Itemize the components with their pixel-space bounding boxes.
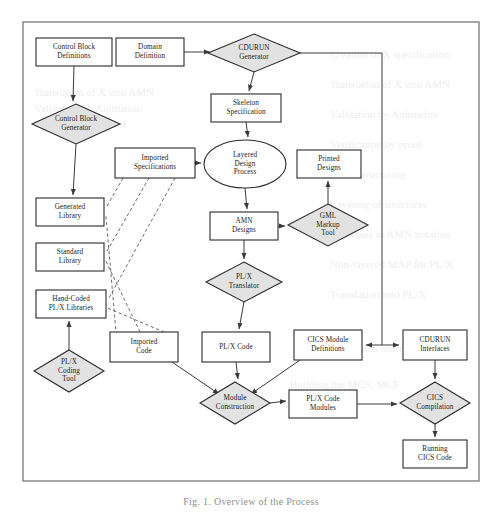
node-label-skeleton-specification: Skeleton (233, 99, 259, 107)
node-hand-coded-plx-libraries[interactable]: Hand-CodedPL/X Libraries (36, 290, 106, 318)
node-label-plx-code: PL/X Code (219, 343, 252, 351)
node-label-domain-definition: Domain (138, 43, 162, 51)
node-cics-compilation[interactable]: CICSCompilation (400, 382, 470, 424)
figure-root: Translation of X into AMNValidation by A… (0, 0, 502, 515)
bleed-through-text: Creation of X specification (330, 48, 450, 60)
node-label-gml-markup-tool: Tool (321, 229, 334, 237)
node-label-domain-definition: Definition (135, 52, 166, 60)
edge-imported-specifications-to-hand-coded-plx-libraries (108, 178, 175, 300)
node-label-plx-coding-tool: Tool (62, 375, 75, 383)
node-label-cdurun-interfaces: CDURUN (420, 336, 452, 344)
edge-cdurun-generator-to-skeleton-specification (249, 72, 254, 91)
node-layer: Control BlockDefinitionsDomainDefinition… (32, 34, 470, 468)
node-label-control-block-generator: Generator (61, 124, 91, 132)
node-label-plx-coding-tool: PL/X (61, 358, 78, 366)
node-label-layered-design-process: Layered (233, 151, 258, 159)
node-label-module-construction: Construction (216, 403, 255, 411)
node-domain-definition[interactable]: DomainDefinition (116, 38, 184, 66)
bleed-through-text: Layering of structures (330, 198, 427, 210)
edge-layered-design-process-to-amn-designs (245, 188, 247, 209)
node-label-plx-code-modules: PL/X Code (306, 395, 339, 403)
node-imported-code[interactable]: ImportedCode (110, 332, 178, 362)
node-label-plx-translator: PL/X (236, 273, 253, 281)
node-label-layered-design-process: Design (235, 160, 256, 168)
node-label-plx-code-modules: Modules (310, 404, 336, 412)
node-label-cdurun-generator: Generator (239, 53, 269, 61)
node-label-gml-markup-tool: Markup (316, 221, 340, 229)
figure-caption: Fig. 1. Overview of the Process (0, 496, 502, 507)
node-standard-library[interactable]: StandardLibrary (36, 243, 104, 271)
node-label-generated-library: Library (59, 212, 82, 220)
bleed-through-text: Translation of X into AMN (34, 86, 154, 98)
node-layered-design-process[interactable]: LayeredDesignProcess (204, 140, 286, 188)
node-label-gml-markup-tool: GML (320, 212, 336, 220)
node-printed-designs[interactable]: PrintedDesigns (297, 150, 361, 178)
node-label-cics-module-definitions: CICS Module (307, 336, 348, 344)
node-label-running-cics-code: CICS Code (418, 454, 452, 462)
node-label-plx-coding-tool: Coding (58, 367, 80, 375)
edge-plx-code-to-module-construction (236, 362, 238, 379)
edge-imported-specifications-to-standard-library (106, 178, 149, 253)
node-label-hand-coded-plx-libraries: Hand-Coded (52, 295, 90, 303)
node-cdurun-interfaces[interactable]: CDURUNInterfaces (403, 330, 467, 360)
node-label-cdurun-interfaces: Interfaces (420, 345, 449, 353)
node-label-plx-translator: Translator (229, 282, 260, 290)
node-plx-code-modules[interactable]: PL/X CodeModules (289, 390, 357, 418)
node-label-imported-specifications: Imported (141, 154, 168, 162)
node-skeleton-specification[interactable]: SkeletonSpecification (211, 94, 281, 122)
node-label-imported-code: Code (136, 347, 152, 355)
edge-hand-coded-plx-libraries-to-imported-code (108, 308, 164, 332)
node-label-control-block-definitions: Control Block (53, 43, 96, 51)
node-control-block-definitions[interactable]: Control BlockDefinitions (36, 38, 112, 66)
edge-skeleton-specification-to-layered-design-process (246, 122, 248, 137)
edge-control-block-generator-to-generated-library (73, 144, 76, 195)
node-label-skeleton-specification: Specification (226, 108, 266, 116)
node-amn-designs[interactable]: AMNDesigns (210, 212, 278, 240)
node-plx-coding-tool[interactable]: PL/XCodingTool (34, 350, 104, 392)
node-label-printed-designs: Designs (317, 164, 341, 172)
node-label-running-cics-code: Running (422, 445, 448, 453)
node-plx-code[interactable]: PL/X Code (202, 332, 270, 362)
node-plx-translator[interactable]: PL/XTranslator (206, 262, 282, 302)
bleed-through-text: Validation by Animation (330, 108, 439, 120)
node-label-imported-code: Imported (130, 338, 157, 346)
node-label-standard-library: Library (59, 257, 82, 265)
edge-module-construction-to-plx-code-modules (270, 401, 286, 403)
node-label-generated-library: Generated (55, 203, 86, 211)
edge-imported-specifications-to-generated-library (106, 178, 123, 208)
node-label-control-block-generator: Control Block (55, 115, 98, 123)
bleed-through-text: Building the MCS, MCF (290, 378, 399, 390)
node-label-amn-designs: Designs (232, 226, 256, 234)
node-label-amn-designs: AMN (235, 217, 253, 225)
edge-generated-library-to-imported-code (106, 216, 116, 332)
node-label-module-construction: Module (224, 394, 247, 402)
node-running-cics-code[interactable]: RunningCICS Code (403, 440, 467, 468)
node-generated-library[interactable]: GeneratedLibrary (36, 198, 104, 226)
bleed-through-text: Translation of X into AMN (330, 78, 450, 90)
node-label-cics-compilation: CICS (427, 394, 443, 402)
node-label-hand-coded-plx-libraries: PL/X Libraries (49, 304, 94, 312)
edge-imported-code-to-module-construction (172, 362, 219, 394)
node-label-layered-design-process: Process (234, 168, 257, 176)
node-label-cics-compilation: Compilation (416, 403, 453, 411)
edge-plx-translator-to-plx-code (239, 302, 244, 329)
node-label-cdurun-generator: CDURUN (239, 44, 271, 52)
node-label-imported-specifications: Specifications (134, 163, 176, 171)
node-label-standard-library: Standard (57, 248, 84, 256)
bleed-through-text: Translation into PL/X (330, 288, 426, 300)
node-imported-specifications[interactable]: ImportedSpecifications (115, 148, 195, 178)
node-label-control-block-definitions: Definitions (57, 52, 91, 60)
bleed-through-text: Non-layered MAP for PL/X (330, 258, 453, 270)
node-label-cics-module-definitions: Definitions (311, 345, 345, 353)
node-label-printed-designs: Printed (318, 155, 340, 163)
flowchart-canvas: Translation of X into AMNValidation by A… (0, 0, 502, 515)
bleed-through-text: Verification by proof (330, 138, 423, 150)
node-cdurun-generator[interactable]: CDURUNGenerator (208, 34, 300, 72)
node-cics-module-definitions[interactable]: CICS ModuleDefinitions (294, 330, 362, 360)
